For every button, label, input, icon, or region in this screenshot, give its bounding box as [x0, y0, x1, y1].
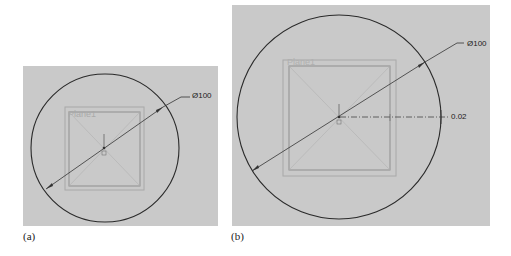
caption-b: (b) [231, 230, 244, 242]
sketch-drawing-b [0, 0, 511, 256]
origin-point-b [338, 116, 341, 119]
offset-dimension-b[interactable]: 0.02 [451, 112, 467, 121]
diameter-dimension-b[interactable]: Ø100 [467, 39, 487, 48]
plane-label-b: Plane1 [287, 57, 315, 67]
dimension-leader-b [425, 43, 464, 62]
